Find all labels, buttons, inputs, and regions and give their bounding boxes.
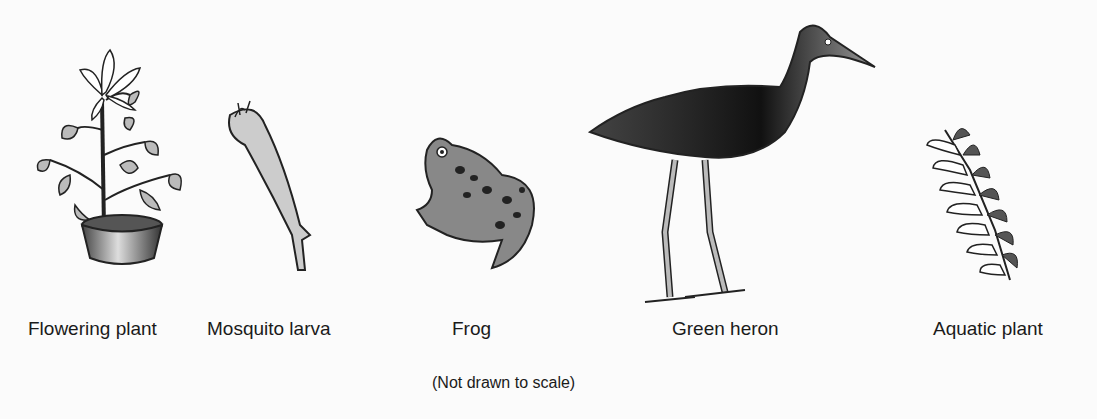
green-heron-icon — [585, 12, 895, 307]
flowering-plant-icon — [30, 40, 190, 280]
label-green-heron: Green heron — [672, 318, 779, 340]
mosquito-larva-icon — [210, 95, 330, 275]
frog-icon — [412, 130, 552, 270]
label-flowering-plant: Flowering plant — [28, 318, 157, 340]
scale-note: (Not drawn to scale) — [432, 374, 575, 392]
label-aquatic-plant: Aquatic plant — [933, 318, 1043, 340]
aquatic-plant-icon — [925, 120, 1035, 285]
label-frog: Frog — [452, 318, 491, 340]
label-mosquito-larva: Mosquito larva — [207, 318, 331, 340]
